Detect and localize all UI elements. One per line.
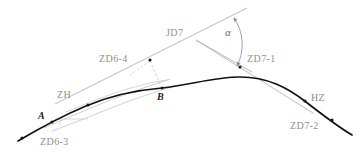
main-curve-group [18, 77, 352, 141]
point-hz [303, 99, 306, 102]
point-zd6-4 [148, 58, 151, 61]
angle-ray-line [196, 40, 252, 72]
point-zd6-3 [20, 136, 23, 139]
label-zd7-1: ZD7-1 [247, 54, 276, 64]
label-point-b: B [157, 92, 164, 102]
tangent-forward-line [196, 40, 313, 113]
label-zd7-2: ZD7-2 [290, 121, 319, 131]
label-zd6-3: ZD6-3 [40, 137, 69, 147]
point-zh [86, 103, 89, 106]
point-zd7-1 [238, 65, 241, 68]
deflection-angle-arc [234, 18, 242, 66]
point-b [160, 86, 163, 89]
label-zh: ZH [57, 90, 71, 100]
label-hz: HZ [311, 93, 325, 103]
main-alignment-curve [18, 77, 352, 141]
label-point-a: A [38, 111, 45, 121]
alignment-diagram: JD7 α ZD6-4 ZD7-1 ZH HZ A B ZD6-3 ZD7-2 [0, 0, 363, 159]
label-zd6-4: ZD6-4 [99, 54, 128, 64]
label-alpha: α [225, 27, 231, 38]
point-a [50, 120, 53, 123]
point-zd7-2 [330, 118, 333, 121]
label-jd7: JD7 [166, 28, 183, 38]
